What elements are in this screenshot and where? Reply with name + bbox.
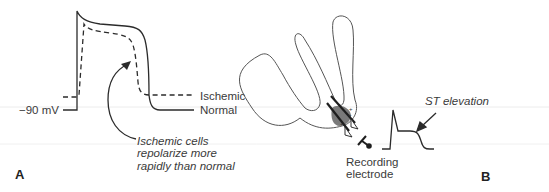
ischemic-curve-label: Ischemic — [200, 91, 245, 103]
svg-text:+: + — [349, 106, 353, 112]
ischemic-annotation: Ischemic cells repolarize more rapidly t… — [137, 135, 235, 172]
svg-text:+: + — [348, 112, 352, 118]
recording-electrode-icon — [358, 136, 371, 148]
panel-label-b: B — [481, 170, 490, 183]
svg-text:+: + — [340, 121, 344, 127]
arrowhead-icon — [121, 61, 131, 70]
panel-label-a: A — [15, 168, 24, 181]
normal-curve-label: Normal — [200, 105, 237, 117]
st-elevation-label: ST elevation — [425, 96, 489, 108]
ischemic-action-potential-curve — [63, 24, 194, 97]
recording-electrode-label: Recording electrode — [346, 156, 398, 181]
voltage-label: −90 mV — [19, 105, 59, 117]
annotation-arrow — [108, 64, 136, 139]
st-elevation-arrow — [417, 113, 436, 131]
ecg-st-elevation-trace — [382, 110, 434, 149]
